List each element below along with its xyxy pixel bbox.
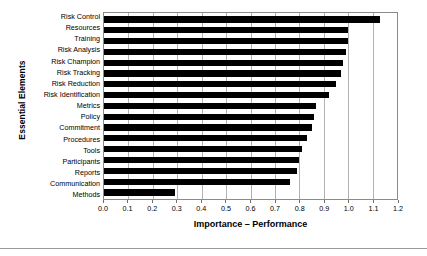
bar[interactable] <box>104 70 341 76</box>
category-label: Metrics <box>32 102 100 110</box>
chart-figure: Essential Elements Risk Control Resource… <box>0 0 427 256</box>
x-tick-label: 1.0 <box>344 204 354 213</box>
bar-row <box>104 81 397 87</box>
bar-row <box>104 168 397 174</box>
x-tick-label: 0.6 <box>246 204 256 213</box>
category-label-column: Risk Control Resources Training Risk Ana… <box>32 13 100 199</box>
bar[interactable] <box>104 27 348 33</box>
x-tick-mark <box>348 200 349 203</box>
bar[interactable] <box>104 92 329 98</box>
x-tick-label: 0.2 <box>147 204 157 213</box>
category-label: Training <box>32 35 100 43</box>
category-label: Risk Tracking <box>32 69 100 77</box>
x-tick-mark <box>103 200 104 203</box>
bar[interactable] <box>104 157 299 163</box>
bar-row <box>104 27 397 33</box>
x-tick-mark <box>373 200 374 203</box>
x-tick-label: 1.1 <box>368 204 378 213</box>
category-label: Risk Reduction <box>32 80 100 88</box>
bar-row <box>104 114 397 120</box>
bar[interactable] <box>104 146 302 152</box>
x-tick-label: 0.4 <box>196 204 206 213</box>
bar[interactable] <box>104 103 316 109</box>
category-label: Risk Identification <box>32 91 100 99</box>
bar-row <box>104 157 397 163</box>
bar-row <box>104 135 397 141</box>
footer-divider <box>0 248 427 249</box>
bar-row <box>104 16 397 22</box>
x-tick-mark <box>225 200 226 203</box>
category-label: Reports <box>32 169 100 177</box>
y-axis-title: Essential Elements <box>10 0 34 200</box>
x-tick-mark <box>152 200 153 203</box>
x-tick-label: 0.9 <box>319 204 329 213</box>
bar[interactable] <box>104 179 290 185</box>
x-axis-ticks: 0.00.10.20.30.40.50.60.70.80.91.01.11.2 <box>103 200 398 214</box>
bar[interactable] <box>104 189 175 195</box>
bar-row <box>104 146 397 152</box>
category-label: Resources <box>32 24 100 32</box>
bar-row <box>104 49 397 55</box>
bar-row <box>104 38 397 44</box>
category-label: Risk Analysis <box>32 46 100 54</box>
category-label: Risk Champion <box>32 58 100 66</box>
x-tick-mark <box>324 200 325 203</box>
bar[interactable] <box>104 135 307 141</box>
y-axis-title-text: Essential Elements <box>17 60 27 139</box>
category-label: Communication <box>32 180 100 188</box>
x-tick-label: 0.3 <box>172 204 182 213</box>
x-tick-mark <box>275 200 276 203</box>
category-label: Policy <box>32 113 100 121</box>
bar-row <box>104 189 397 195</box>
x-tick-label: 1.2 <box>393 204 403 213</box>
x-tick-label: 0.0 <box>98 204 108 213</box>
bar[interactable] <box>104 81 336 87</box>
x-tick-mark <box>299 200 300 203</box>
bar[interactable] <box>104 38 348 44</box>
x-tick-mark <box>176 200 177 203</box>
bar[interactable] <box>104 124 312 130</box>
bar[interactable] <box>104 60 343 66</box>
bar-row <box>104 60 397 66</box>
bar-row <box>104 92 397 98</box>
bar[interactable] <box>104 114 314 120</box>
x-tick-mark <box>250 200 251 203</box>
category-label: Participants <box>32 158 100 166</box>
category-label: Methods <box>32 191 100 199</box>
category-label: Risk Control <box>32 13 100 21</box>
x-tick-label: 0.8 <box>295 204 305 213</box>
category-label: Tools <box>32 147 100 155</box>
plot-area <box>103 12 398 200</box>
bar[interactable] <box>104 168 297 174</box>
x-tick-mark <box>127 200 128 203</box>
bar-row <box>104 179 397 185</box>
x-tick-label: 0.5 <box>221 204 231 213</box>
bar-series <box>104 13 397 199</box>
bar-row <box>104 124 397 130</box>
x-tick-label: 0.7 <box>270 204 280 213</box>
category-label: Procedures <box>32 136 100 144</box>
bar-row <box>104 103 397 109</box>
x-axis-title: Importance – Performance <box>103 219 398 229</box>
bar[interactable] <box>104 16 380 22</box>
category-label: Commitment <box>32 124 100 132</box>
bar-row <box>104 70 397 76</box>
bar[interactable] <box>104 49 346 55</box>
x-tick-mark <box>201 200 202 203</box>
x-tick-label: 0.1 <box>123 204 133 213</box>
x-tick-mark <box>398 200 399 203</box>
